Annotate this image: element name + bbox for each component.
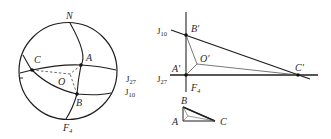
label-F4-right: F4: [190, 82, 201, 94]
point-A: [79, 63, 83, 67]
label-small-C: C: [220, 116, 227, 127]
label-A-prime: A′: [171, 63, 181, 74]
point-C-prime: [296, 73, 300, 77]
label-O-prime: O′: [200, 53, 210, 64]
projection-diagram: B′ A′ O′ C′ J10 J27 F4 B A C: [157, 12, 318, 127]
point-C: [30, 68, 34, 72]
label-J10-left: J10: [125, 87, 135, 98]
stereonet-diagram: N A C O B F4 J27 J10: [19, 10, 137, 134]
label-A: A: [85, 52, 93, 63]
small-triangle: B A C: [171, 95, 227, 127]
dashed-bisectors: [32, 65, 81, 94]
label-C-prime: C′: [295, 62, 305, 73]
label-J27-left: J27: [126, 74, 137, 85]
label-F4: F4: [62, 122, 73, 134]
label-N: N: [65, 10, 74, 21]
label-J27-right: J27: [157, 74, 168, 85]
label-B-prime: B′: [191, 23, 200, 34]
label-small-B: B: [181, 95, 187, 106]
label-small-A: A: [171, 116, 179, 127]
point-B-prime: [184, 33, 188, 37]
label-J10-right: J10: [157, 26, 167, 37]
label-C: C: [34, 54, 41, 65]
diagram-canvas: N A C O B F4 J27 J10 B′ A′ O′ C′ J10 J27…: [0, 0, 331, 139]
label-O: O: [58, 76, 65, 87]
point-A-prime: [184, 73, 188, 77]
label-B: B: [76, 97, 82, 108]
point-B: [75, 92, 79, 96]
line-J10: [171, 30, 310, 79]
